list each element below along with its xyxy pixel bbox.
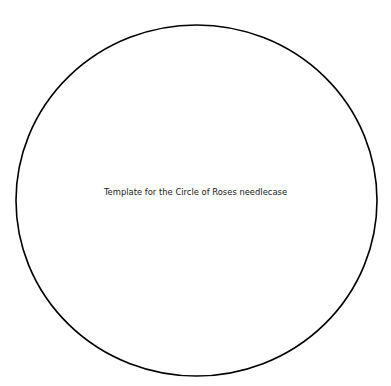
template-caption: Template for the Circle of Roses needlec… [0, 187, 391, 197]
template-canvas: Template for the Circle of Roses needlec… [0, 0, 391, 386]
